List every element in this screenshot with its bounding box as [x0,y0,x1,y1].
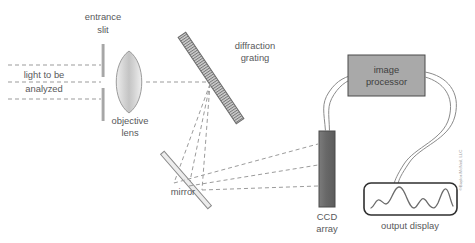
output-display-label: output display [381,220,439,231]
copyright-notice: ©Baylor-McNeil, LLC [458,149,463,190]
image-processor-label-line2: processor [366,76,407,87]
reflected-ray-2 [189,165,318,186]
spectrometer-diagram: image processor entrance slit light to b… [0,0,475,243]
reflected-ray-3 [202,186,318,190]
ccd-array-label-line2: array [316,223,338,234]
dispersed-ray-2 [189,84,210,186]
ccd-array-body [319,131,335,207]
output-display [364,183,457,215]
light-to-be-analyzed-label-line1: light to be [24,69,65,80]
output-display-frame [364,183,457,215]
entrance-slit-lower-bar [102,88,105,121]
diagram-canvas: image processor entrance slit light to b… [0,0,475,243]
objective-lens-label-line2: lens [121,127,139,138]
mirror-body [161,151,212,208]
ccd-array [319,131,335,207]
objective-lens-body [116,51,142,113]
objective-lens [116,51,142,113]
mirror [161,151,212,208]
ccd-array-label-line1: CCD [317,211,338,222]
entrance-slit-upper-bar [102,44,105,77]
dispersed-ray-3 [202,84,210,190]
image-processor-label-line1: image [374,64,400,75]
diffraction-grating-label-line1: diffraction [235,40,275,51]
light-to-be-analyzed-label-line2: analyzed [25,83,63,94]
entrance-slit [102,44,105,121]
diffraction-grating-label-line2: grating [241,52,270,63]
entrance-slit-label-line2: slit [97,24,109,35]
objective-lens-label-line1: objective [111,115,148,126]
reflected-rays-to-ccd [174,144,318,190]
entrance-slit-label-line1: entrance [85,11,121,22]
image-processor: image processor [348,55,425,96]
mirror-label: mirror [171,186,195,197]
